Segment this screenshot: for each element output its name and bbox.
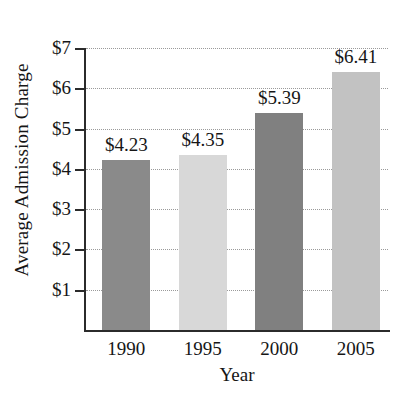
bar-chart-figure: Average Admission Charge $1$2$3$4$5$6$7 … [0,0,404,401]
bar-value-label-2005: $6.41 [334,46,377,68]
x-axis-tick-label-2000: 2000 [260,338,298,360]
y-axis-tick-label: $5 [52,118,71,140]
bar-value-label-1995: $4.35 [181,129,224,151]
plot-area: $1$2$3$4$5$6$7 $4.23$4.35$5.39$6.41 1990… [84,44,390,330]
y-axis-tickmark [75,169,86,171]
x-axis-line [84,330,390,332]
x-axis-title: Year [84,364,390,386]
y-axis-tick-label: $1 [52,279,71,301]
x-axis-tick-label-1990: 1990 [107,338,145,360]
x-axis-tick-label-2005: 2005 [337,338,375,360]
bar-2000[interactable]: $5.39 [255,113,303,330]
y-axis-tickmark [75,48,86,50]
bar-value-label-1990: $4.23 [105,134,148,156]
y-axis-tickmark [75,290,86,292]
y-axis-tickmark [75,249,86,251]
y-axis-tick-label: $7 [52,37,71,59]
y-axis-tickmark [75,129,86,131]
bar-2005[interactable]: $6.41 [332,72,380,330]
x-axis-tick-label-1995: 1995 [184,338,222,360]
y-axis-tick-label: $3 [52,198,71,220]
y-axis-tickmark [75,88,86,90]
bar-1990[interactable]: $4.23 [102,160,150,330]
y-axis-tickmark [75,209,86,211]
bar-1995[interactable]: $4.35 [179,155,227,330]
y-axis-tick-label: $6 [52,77,71,99]
bar-value-label-2000: $5.39 [258,87,301,109]
y-axis-title: Average Admission Charge [0,0,44,340]
y-axis-title-text: Average Admission Charge [11,63,33,276]
y-axis-tick-label: $2 [52,238,71,260]
y-axis-tick-label: $4 [52,158,71,180]
